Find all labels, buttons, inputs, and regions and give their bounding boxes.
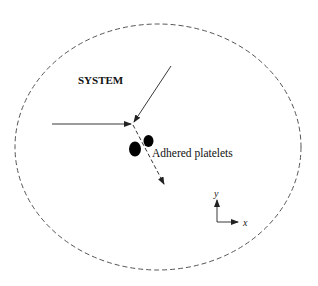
x-axis-label: x [242,217,248,228]
platelet-2 [144,135,154,147]
platelet-1 [129,142,141,157]
system-diagram: SYSTEM Adhered platelets y x [0,0,318,286]
system-label: SYSTEM [78,74,124,86]
platelets-label: Adhered platelets [152,147,233,160]
incoming-arrow-diagonal [134,66,171,122]
y-axis-label: y [213,188,219,199]
coordinate-axes: y x [213,188,248,228]
